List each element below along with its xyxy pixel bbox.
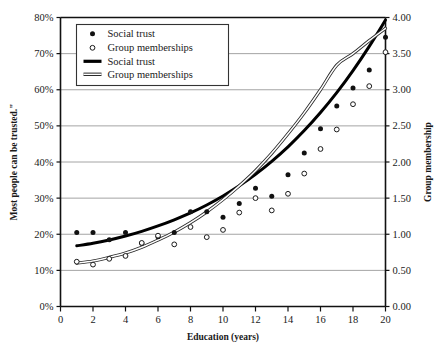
y-tick-label-left: 0% bbox=[40, 301, 54, 312]
x-tick-label: 10 bbox=[218, 314, 229, 325]
data-point-social-trust bbox=[107, 237, 112, 242]
data-point-social-trust bbox=[91, 230, 96, 235]
data-point-group-memberships bbox=[302, 171, 307, 176]
data-point-group-memberships bbox=[172, 242, 177, 247]
data-point-group-memberships bbox=[156, 233, 161, 238]
x-tick-label: 18 bbox=[348, 314, 359, 325]
data-point-social-trust bbox=[286, 172, 291, 177]
data-point-group-memberships bbox=[188, 225, 193, 230]
x-tick-label: 14 bbox=[283, 314, 294, 325]
data-point-group-memberships bbox=[123, 254, 128, 259]
data-point-group-memberships bbox=[318, 147, 323, 152]
data-point-group-memberships bbox=[204, 235, 209, 240]
legend-marker-filled-circle bbox=[90, 31, 95, 36]
y-tick-label-right: 0.00 bbox=[393, 301, 411, 312]
data-point-social-trust bbox=[253, 186, 258, 191]
y-tick-label-left: 50% bbox=[34, 120, 54, 131]
data-point-group-memberships bbox=[74, 259, 79, 264]
data-point-group-memberships bbox=[286, 191, 291, 196]
x-axis-title: Education (years) bbox=[187, 332, 259, 343]
y-tick-label-right: 3.00 bbox=[393, 84, 411, 95]
y-axis-title-left: Most people can be trusted." bbox=[9, 104, 19, 221]
x-tick-label: 16 bbox=[315, 314, 326, 325]
chart-figure: 0%10%20%30%40%50%60%70%80%0.000.501.001.… bbox=[0, 0, 444, 355]
data-point-social-trust bbox=[351, 85, 356, 90]
y-tick-label-left: 70% bbox=[34, 48, 54, 59]
y-tick-label-right: 2.50 bbox=[393, 120, 411, 131]
y-tick-label-left: 60% bbox=[34, 84, 54, 95]
y-tick-label-right: 3.50 bbox=[393, 48, 411, 59]
y-tick-label-right: 0.50 bbox=[393, 265, 411, 276]
chart-legend: Social trustGroup membershipsSocial trus… bbox=[77, 25, 229, 86]
legend-marker-open-circle bbox=[90, 45, 95, 50]
y-tick-label-right: 1.50 bbox=[393, 193, 411, 204]
y-axis-title-right: Group membership bbox=[423, 122, 433, 202]
data-point-group-memberships bbox=[91, 262, 96, 267]
legend-label: Social trust bbox=[108, 28, 156, 39]
y-tick-label-right: 2.00 bbox=[393, 157, 411, 168]
data-point-group-memberships bbox=[334, 127, 339, 132]
y-tick-label-left: 40% bbox=[34, 157, 54, 168]
x-tick-label: 4 bbox=[123, 314, 129, 325]
data-point-group-memberships bbox=[237, 210, 242, 215]
data-point-social-trust bbox=[237, 201, 242, 206]
data-point-social-trust bbox=[269, 194, 274, 199]
data-point-social-trust bbox=[367, 67, 372, 72]
x-tick-label: 8 bbox=[188, 314, 193, 325]
legend-label: Group memberships bbox=[108, 69, 193, 80]
data-point-social-trust bbox=[383, 35, 388, 40]
legend-label: Group memberships bbox=[108, 42, 193, 53]
y-tick-label-left: 30% bbox=[34, 193, 54, 204]
data-point-group-memberships bbox=[383, 50, 388, 55]
data-point-group-memberships bbox=[351, 102, 356, 107]
y-tick-label-left: 20% bbox=[34, 229, 54, 240]
data-point-group-memberships bbox=[253, 196, 258, 201]
y-tick-label-right: 4.00 bbox=[393, 12, 411, 23]
data-point-group-memberships bbox=[269, 208, 274, 213]
y-tick-label-left: 80% bbox=[34, 12, 54, 23]
x-tick-label: 12 bbox=[250, 314, 261, 325]
x-tick-label: 20 bbox=[380, 314, 391, 325]
data-point-social-trust bbox=[318, 126, 323, 131]
data-point-social-trust bbox=[123, 230, 128, 235]
y-tick-label-right: 1.00 bbox=[393, 229, 411, 240]
x-tick-label: 0 bbox=[58, 314, 63, 325]
data-point-group-memberships bbox=[221, 228, 226, 233]
data-point-group-memberships bbox=[367, 84, 372, 89]
data-point-social-trust bbox=[221, 215, 226, 220]
scatter-plot-svg: 0%10%20%30%40%50%60%70%80%0.000.501.001.… bbox=[0, 0, 444, 355]
x-tick-label: 2 bbox=[90, 314, 95, 325]
data-point-group-memberships bbox=[139, 241, 144, 246]
data-point-social-trust bbox=[74, 230, 79, 235]
data-point-social-trust bbox=[334, 104, 339, 109]
data-point-social-trust bbox=[172, 230, 177, 235]
y-tick-label-left: 10% bbox=[34, 265, 54, 276]
legend-label: Social trust bbox=[108, 56, 156, 67]
data-point-group-memberships bbox=[107, 256, 112, 261]
data-point-social-trust bbox=[204, 209, 209, 214]
data-point-social-trust bbox=[302, 150, 307, 155]
x-tick-label: 6 bbox=[155, 314, 160, 325]
data-point-social-trust bbox=[188, 209, 193, 214]
